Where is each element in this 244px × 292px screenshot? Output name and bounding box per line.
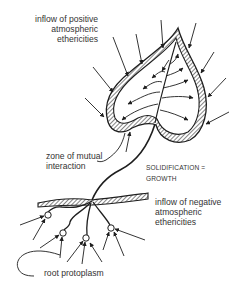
leaf bbox=[106, 28, 206, 142]
label-line: atmospheric bbox=[155, 207, 221, 217]
label-line: atmospheric bbox=[35, 24, 98, 34]
label-line: GROWTH bbox=[146, 173, 205, 184]
label-line: zone of mutual bbox=[46, 151, 102, 161]
label-line: inflow of positive bbox=[35, 14, 98, 24]
label-line: inflow of negative bbox=[155, 197, 221, 207]
label-positive-inflow: inflow of positive atmospheric ethericit… bbox=[35, 14, 98, 44]
negative-inflow-arrows bbox=[20, 216, 145, 264]
label-zone-of-interaction: zone of mutual interaction bbox=[46, 151, 102, 171]
label-line: root protoplasm bbox=[44, 268, 104, 278]
label-solidification: SOLIDIFICATION = GROWTH bbox=[146, 162, 205, 184]
label-root-protoplasm: root protoplasm bbox=[44, 268, 104, 278]
label-line: ethericities bbox=[155, 217, 221, 227]
ground-line bbox=[38, 193, 148, 207]
label-line: ethericities bbox=[35, 34, 98, 44]
label-line: SOLIDIFICATION = bbox=[146, 162, 205, 173]
label-negative-inflow: inflow of negative atmospheric ethericit… bbox=[155, 197, 221, 227]
label-line: interaction bbox=[46, 161, 102, 171]
